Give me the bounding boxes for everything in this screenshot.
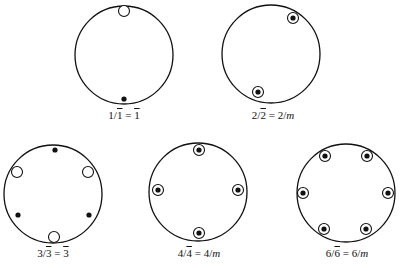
panel-label-3: 3/3 = 3 [37, 247, 68, 259]
primitive-circle [297, 144, 395, 242]
panel-label-4: 4/4 = 4/m [178, 247, 220, 259]
label-mirror: m [286, 109, 294, 121]
primitive-circle [75, 6, 173, 104]
stereogram-figure: 1/1 = 1 2/2 = 2/m 3/3 = 3 4/4 = 4/m 6/6 … [0, 0, 400, 271]
label-prefix: 3/ [37, 247, 46, 259]
primitive-circle [4, 145, 102, 243]
circled-dot-icon [320, 151, 331, 162]
circled-dot-icon [288, 13, 299, 24]
label-equals: = 4/ [192, 247, 212, 259]
stereogram-panel-5 [297, 144, 395, 242]
label-equals: = 2/ [266, 109, 286, 121]
label-equals: = 6/ [340, 247, 360, 259]
label-prefix: 2/ [252, 109, 261, 121]
circled-dot-icon [233, 185, 244, 196]
panel-label-5: 6/6 = 6/m [326, 247, 368, 259]
circled-dot-icon [194, 228, 205, 239]
open-circle-icon [12, 167, 23, 178]
stereogram-canvas [0, 0, 400, 271]
stereogram-panel-1 [75, 6, 173, 105]
label-mirror: m [212, 247, 220, 259]
filled-dot-icon [52, 147, 57, 152]
label-bar-result: 3 [63, 247, 69, 259]
label-mirror: m [360, 247, 368, 259]
circled-dot-icon [362, 151, 373, 162]
label-equals: = [122, 109, 134, 121]
filled-dot-icon [86, 212, 91, 217]
stereogram-panel-3 [4, 145, 102, 243]
label-prefix: 4/ [178, 247, 187, 259]
filled-dot-icon [121, 96, 126, 101]
label-equals: = [51, 247, 63, 259]
label-bar-result: 1 [134, 109, 140, 121]
stereogram-panel-2 [222, 5, 320, 103]
open-circle-icon [83, 167, 94, 178]
stereogram-panel-4 [149, 143, 247, 241]
open-circle-icon [119, 6, 130, 17]
open-circle-icon [49, 232, 60, 243]
panel-label-2: 2/2 = 2/m [252, 109, 294, 121]
circled-dot-icon [194, 145, 205, 156]
circled-dot-icon [319, 224, 330, 235]
primitive-circle [222, 5, 320, 103]
circled-dot-icon [298, 188, 309, 199]
panel-label-1: 1/1 = 1 [108, 109, 139, 121]
circled-dot-icon [253, 87, 264, 98]
circled-dot-icon [361, 224, 372, 235]
label-prefix: 1/ [108, 109, 117, 121]
filled-dot-icon [15, 212, 20, 217]
circled-dot-icon [153, 185, 164, 196]
label-prefix: 6/ [326, 247, 335, 259]
circled-dot-icon [383, 188, 394, 199]
